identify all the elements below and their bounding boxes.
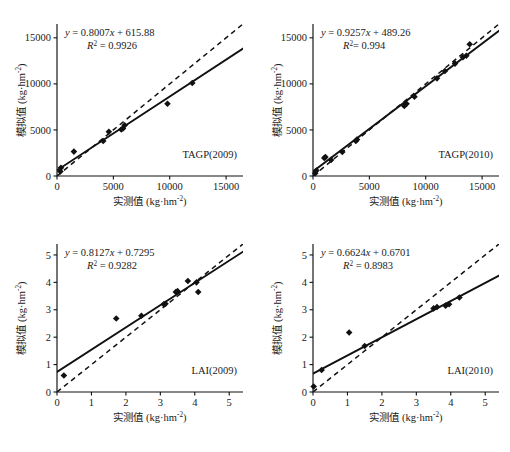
x-tick-label: 0 — [310, 181, 315, 192]
chart-panel-lai-2009: 012345012345y = 0.8127x + 0.7295R2 = 0.9… — [0, 228, 255, 452]
regression-figure: 050001000015000050001000015000y = 0.8007… — [0, 0, 510, 452]
y-tick-label: 10000 — [25, 78, 51, 89]
x-axis-title: 实测值 (kg·hm-2) — [113, 195, 187, 208]
x-axis-title: 实测值 (kg·hm-2) — [369, 195, 443, 208]
regression-equation-text: y = 0.8127x + 0.7295 — [64, 247, 154, 258]
equation-annotation: y = 0.8007x + 615.88R2 = 0.9926 — [64, 27, 154, 51]
data-point — [346, 329, 353, 336]
scatter-plot-tagp-2009: 050001000015000050001000015000y = 0.8007… — [0, 2, 255, 224]
y-tick-label: 1 — [302, 359, 307, 370]
y-axis-title: 模拟值 (kg·hm-2) — [271, 63, 284, 137]
x-tick-label: 15000 — [213, 181, 239, 192]
panel-title: LAI(2009) — [192, 365, 238, 377]
axes-lai-2010: 012345012345 — [302, 244, 499, 408]
x-tick-label: 4 — [448, 397, 454, 408]
data-point — [185, 278, 192, 285]
y-tick-label: 2 — [302, 332, 307, 343]
x-tick-label: 10000 — [157, 181, 183, 192]
x-tick-label: 15000 — [469, 181, 495, 192]
y-tick-label: 5 — [302, 250, 307, 261]
y-tick-label: 3 — [302, 304, 307, 315]
regression-fit-line — [57, 252, 243, 372]
x-tick-label: 5000 — [103, 181, 124, 192]
y-tick-label: 0 — [46, 171, 51, 182]
scatter-plot-lai-2010: 012345012345y = 0.6624x + 0.6701R2 = 0.8… — [255, 228, 510, 452]
x-tick-label: 3 — [414, 397, 419, 408]
y-axis-title: 模拟值 (kg·hm-2) — [15, 281, 28, 355]
y-tick-label: 2 — [46, 332, 51, 343]
y-tick-label: 4 — [46, 277, 52, 288]
regression-equation-text: y = 0.8007x + 615.88 — [64, 27, 154, 38]
scatter-plot-tagp-2010: 050001000015000050001000015000y = 0.9257… — [255, 2, 510, 224]
regression-equation-text: y = 0.6624x + 0.6701 — [320, 247, 410, 258]
y-tick-label: 0 — [302, 387, 307, 398]
equation-annotation: y = 0.6624x + 0.6701R2 = 0.8983 — [320, 247, 410, 271]
y-axis-title: 模拟值 (kg·hm-2) — [15, 63, 28, 137]
data-point — [339, 149, 346, 156]
equation-annotation: y = 0.8127x + 0.7295R2 = 0.9282 — [64, 247, 154, 271]
x-tick-label: 0 — [54, 181, 59, 192]
x-tick-label: 0 — [54, 397, 59, 408]
r-squared-text: R2 = 0.8983 — [342, 260, 393, 271]
data-point — [164, 100, 171, 107]
panel-title: LAI(2010) — [448, 365, 494, 377]
chart-panel-tagp-2010: 050001000015000050001000015000y = 0.9257… — [255, 2, 510, 224]
x-tick-label: 1 — [89, 397, 94, 408]
y-tick-label: 0 — [302, 171, 307, 182]
y-tick-label: 0 — [46, 387, 51, 398]
y-axis-title: 模拟值 (kg·hm-2) — [271, 281, 284, 355]
scatter-plot-lai-2009: 012345012345y = 0.8127x + 0.7295R2 = 0.9… — [0, 228, 255, 452]
y-tick-label: 4 — [302, 277, 308, 288]
y-tick-label: 15000 — [281, 32, 307, 43]
r-squared-text: R2 = 0.9926 — [86, 40, 137, 51]
panel-title: TAGP(2009) — [182, 149, 237, 161]
data-points-lai-2010 — [310, 294, 462, 390]
y-tick-label: 1 — [46, 359, 51, 370]
x-axis-title: 实测值 (kg·hm-2) — [113, 411, 187, 424]
y-tick-label: 15000 — [25, 32, 51, 43]
x-axis-title: 实测值 (kg·hm-2) — [369, 411, 443, 424]
y-tick-label: 10000 — [281, 78, 307, 89]
x-tick-label: 0 — [310, 397, 315, 408]
y-tick-label: 5 — [46, 250, 51, 261]
regression-fit-line — [313, 276, 499, 374]
axes-lai-2009: 012345012345 — [46, 244, 243, 408]
data-point — [61, 372, 68, 379]
x-tick-label: 5 — [483, 397, 488, 408]
y-tick-label: 5000 — [30, 125, 51, 136]
equation-annotation: y = 0.9257x + 489.26R2= 0.994 — [320, 27, 410, 51]
data-point — [466, 41, 473, 48]
y-tick-label: 5000 — [286, 125, 307, 136]
x-tick-label: 1 — [345, 397, 350, 408]
x-tick-label: 2 — [123, 397, 128, 408]
panel-title: TAGP(2010) — [438, 149, 493, 161]
y-tick-label: 3 — [46, 304, 51, 315]
chart-panel-tagp-2009: 050001000015000050001000015000y = 0.8007… — [0, 2, 255, 224]
x-tick-label: 5000 — [359, 181, 380, 192]
data-point — [195, 289, 202, 296]
x-tick-label: 4 — [192, 397, 198, 408]
x-tick-label: 10000 — [413, 181, 439, 192]
x-tick-label: 3 — [158, 397, 163, 408]
x-tick-label: 2 — [379, 397, 384, 408]
r-squared-text: R2 = 0.9282 — [86, 260, 137, 271]
axes-tagp-2010: 050001000015000050001000015000 — [281, 24, 499, 192]
r-squared-text: R2= 0.994 — [342, 40, 386, 51]
regression-equation-text: y = 0.9257x + 489.26 — [320, 27, 410, 38]
data-point — [113, 315, 120, 322]
x-tick-label: 5 — [227, 397, 232, 408]
chart-panel-lai-2010: 012345012345y = 0.6624x + 0.6701R2 = 0.8… — [255, 228, 510, 452]
data-point — [71, 148, 78, 155]
